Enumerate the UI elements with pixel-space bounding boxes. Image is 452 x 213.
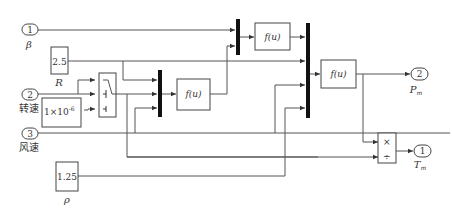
constant-epsilon[interactable]: 1×10-6 <box>42 98 81 127</box>
outport-Pm[interactable]: 2 Pm <box>409 68 428 96</box>
inport-wind[interactable]: 3 风速 <box>19 128 39 153</box>
inport-label: 转速 <box>19 102 39 114</box>
outport-label: Tm <box>414 159 427 171</box>
constant-R[interactable]: 2.5 R <box>51 47 68 88</box>
block-diagram: 1 β 2 转速 3 风速 2.5 R 1×10-6 1.25 ρ <box>0 0 452 213</box>
wire-speed-switch-top <box>78 80 95 94</box>
switch-block[interactable] <box>99 73 116 117</box>
constant-label: ρ <box>63 194 70 205</box>
inport-number: 1 <box>27 25 33 35</box>
outport-label: Pm <box>409 84 423 96</box>
wire-wind-bus <box>275 85 305 133</box>
constant-value: 2.5 <box>52 57 67 67</box>
constant-label: R <box>54 77 63 88</box>
multiply-icon: × <box>383 137 391 147</box>
inport-number: 2 <box>27 90 33 100</box>
inport-number: 3 <box>27 129 33 139</box>
constant-value: 1.25 <box>57 172 77 182</box>
product-block[interactable]: × ÷ <box>378 133 396 163</box>
outport-number: 1 <box>420 146 426 156</box>
inport-speed[interactable]: 2 转速 <box>19 89 39 114</box>
fcn-block-3[interactable]: f(u) <box>321 60 356 88</box>
fcn-expr: f(u) <box>184 89 202 99</box>
fcn-expr: f(u) <box>263 32 281 42</box>
constant-rho[interactable]: 1.25 ρ <box>56 162 78 205</box>
wire-switch-down <box>127 94 318 157</box>
outport-Tm[interactable]: 1 Tm <box>414 145 431 171</box>
wire-eps-switch <box>84 109 95 110</box>
wire-fcn3-product <box>363 74 378 142</box>
fcn-block-1[interactable]: f(u) <box>177 79 210 110</box>
wire-rho-bus <box>78 108 305 176</box>
outport-number: 2 <box>417 69 423 79</box>
mux-2[interactable] <box>236 19 240 55</box>
wire-R-mux1 <box>123 61 157 80</box>
inport-beta[interactable]: 1 β <box>22 24 38 50</box>
mux-3[interactable] <box>306 23 310 118</box>
mux-1[interactable] <box>158 70 162 117</box>
fcn-block-2[interactable]: f(u) <box>255 23 290 50</box>
wire-fcn1-mux2 <box>210 46 235 94</box>
fcn-expr: f(u) <box>329 69 347 79</box>
inport-label: β <box>25 39 32 50</box>
divide-icon: ÷ <box>383 152 391 162</box>
wire-wind-mux1 <box>135 108 157 133</box>
inport-label: 风速 <box>19 142 39 153</box>
